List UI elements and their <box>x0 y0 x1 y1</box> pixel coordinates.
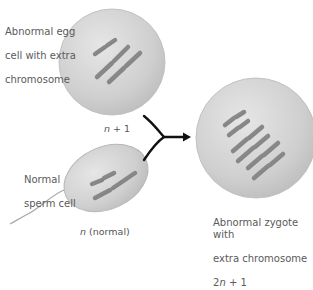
egg-label: Abnormal egg cell with extra chromosome <box>5 14 76 98</box>
zygote-label-line: extra chromosome <box>213 253 313 265</box>
zygote-ploidy: 2n + 1 <box>213 277 313 289</box>
sperm-label: Normal sperm cell <box>24 162 76 222</box>
egg-ploidy-rest: + 1 <box>110 123 130 134</box>
egg-ploidy: n + 1 <box>104 123 130 134</box>
zygote-label-line: Abnormal zygote with <box>213 217 313 241</box>
egg-label-line: cell with extra <box>5 50 76 62</box>
sperm-label-line: Normal <box>24 174 76 186</box>
sperm-ploidy: n (normal) <box>80 226 130 237</box>
sperm-label-line: sperm cell <box>24 198 76 210</box>
sperm-ploidy-rest: (normal) <box>86 226 130 237</box>
zygote-label: Abnormal zygote with extra chromosome 2n… <box>213 205 313 290</box>
zygote-cell <box>196 78 313 198</box>
egg-label-line: Abnormal egg <box>5 26 76 38</box>
fertilization-arrow-icon <box>144 116 191 160</box>
zygote-ploidy-rest: + 1 <box>226 277 247 288</box>
egg-label-line: chromosome <box>5 74 76 86</box>
